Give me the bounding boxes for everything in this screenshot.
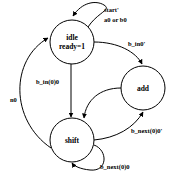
- edge-label-b-next-0-0-prime: b_next(0)0': [131, 127, 163, 135]
- state-idle-label: idle: [66, 33, 78, 42]
- state-idle-output: ready=1: [59, 42, 85, 51]
- edge-label-start: start': [104, 6, 119, 13]
- transition-shift-to-add: b_next(0)0': [94, 112, 163, 140]
- state-add-label: add: [137, 84, 150, 93]
- edge-label-b-in-0-0: b_in(0)0: [36, 78, 59, 86]
- state-shift: shift: [50, 118, 94, 162]
- edge-label-a0-or-b0: a0 or b0: [104, 16, 127, 23]
- edge-label-b-next-0-0: b_next(0)0: [100, 163, 130, 171]
- state-add: add: [121, 66, 165, 110]
- state-diagram: start' a0 or b0 b_in0' b_in(0)0 b_next(0…: [0, 0, 173, 181]
- state-idle: idle ready=1: [50, 20, 94, 64]
- transition-idle-to-add: b_in0': [94, 40, 146, 64]
- transition-idle-to-shift: b_in(0)0: [36, 64, 71, 117]
- state-shift-label: shift: [65, 136, 80, 145]
- transition-add-to-shift: [84, 88, 121, 118]
- transition-shift-to-idle: n0: [10, 38, 51, 148]
- edge-label-n0: n0: [10, 96, 17, 103]
- edge-label-b-in0-prime: b_in0': [128, 40, 146, 47]
